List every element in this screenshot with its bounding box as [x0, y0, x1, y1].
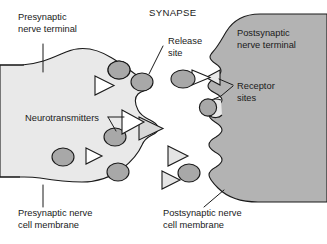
synapse-diagram-canvas: SYNAPSE Presynaptic nerve terminal Relea…: [0, 0, 327, 244]
leader-postsynaptic-membrane: [204, 190, 224, 207]
label-presynaptic-membrane-line1: Presynaptic nerve: [18, 208, 92, 218]
cleft-vesicle-upper: [171, 70, 195, 88]
label-presynaptic-membrane-line2: cell membrane: [18, 220, 79, 230]
label-receptor-sites-line2: sites: [237, 93, 256, 103]
docked-vesicle-at-receptor: [199, 99, 216, 116]
label-postsynaptic-terminal-line1: Postsynaptic: [237, 28, 290, 38]
release-site-vesicle-upper: [131, 73, 153, 91]
cleft-neurotransmitter-triangle-upper: [168, 146, 188, 166]
label-release-site-line1: Release: [168, 36, 202, 46]
vesicle-top: [108, 61, 130, 79]
vesicle-lower-left: [52, 148, 74, 166]
label-neurotransmitters: Neurotransmitters: [25, 113, 99, 123]
label-receptor-sites-line1: Receptor: [237, 81, 275, 91]
vesicles-in-cleft: [171, 70, 200, 182]
label-postsynaptic-terminal-line2: nerve terminal: [237, 40, 296, 50]
leader-release-site: [149, 46, 163, 74]
label-presynaptic-terminal-line1: Presynaptic: [18, 12, 67, 22]
vesicle-bottom: [107, 163, 129, 181]
label-release-site-line2: site: [168, 48, 182, 58]
cleft-neurotransmitter-triangle-lower: [162, 171, 180, 189]
label-postsynaptic-membrane-line2: cell membrane: [163, 220, 224, 230]
synapse-diagram: SYNAPSE Presynaptic nerve terminal Relea…: [0, 0, 327, 244]
label-postsynaptic-membrane-line1: Postsynaptic nerve: [163, 208, 242, 218]
label-presynaptic-terminal-line2: nerve terminal: [18, 24, 77, 34]
cleft-vesicle-lower: [178, 164, 200, 182]
figure-title: SYNAPSE: [149, 7, 196, 18]
